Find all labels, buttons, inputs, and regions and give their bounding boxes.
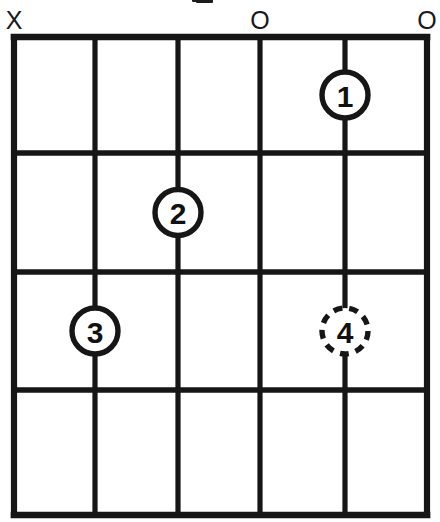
finger-number-label-3: 3 (87, 316, 104, 349)
muted-string-marker-1: X (6, 6, 23, 34)
open-mute-markers-group: XOO (6, 6, 437, 34)
open-string-marker-6: O (417, 6, 436, 34)
finger-number-label-1: 1 (337, 80, 354, 113)
finger-number-label-4: 4 (337, 316, 354, 349)
finger-positions-group: 1234 (72, 72, 368, 354)
chord-diagram-canvas: XOO 1234 (0, 0, 440, 522)
open-string-marker-4: O (250, 6, 269, 34)
finger-number-label-2: 2 (170, 197, 187, 230)
chord-diagram-page: XOO 1234 (0, 0, 440, 522)
